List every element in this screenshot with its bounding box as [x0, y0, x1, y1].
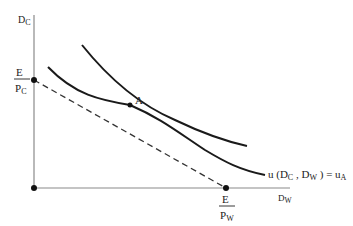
indifference-curve-uA: [48, 67, 265, 175]
x-intercept-label: E PW: [219, 193, 235, 223]
y-intercept-label: E PC: [14, 66, 30, 96]
svg-text:E: E: [222, 193, 229, 205]
svg-text:PW: PW: [220, 209, 234, 223]
budget-line: [34, 80, 226, 188]
svg-text:E: E: [16, 66, 23, 78]
indifference-curve-label: u (DC , DW ) = uA: [268, 168, 347, 182]
x-axis-label: DW: [278, 193, 293, 205]
indifference-curve-higher: [82, 45, 247, 146]
tangency-point-A: [128, 103, 133, 108]
svg-text:PC: PC: [15, 82, 26, 96]
y-intercept-point: [31, 77, 37, 83]
indifference-curve-diagram: DC DW A E PC E PW u (DC , DW ) = uA: [0, 0, 353, 226]
tangency-point-label: A: [135, 94, 143, 106]
y-axis-label: DC: [18, 14, 31, 27]
origin-point: [31, 185, 37, 191]
x-intercept-point: [223, 185, 229, 191]
